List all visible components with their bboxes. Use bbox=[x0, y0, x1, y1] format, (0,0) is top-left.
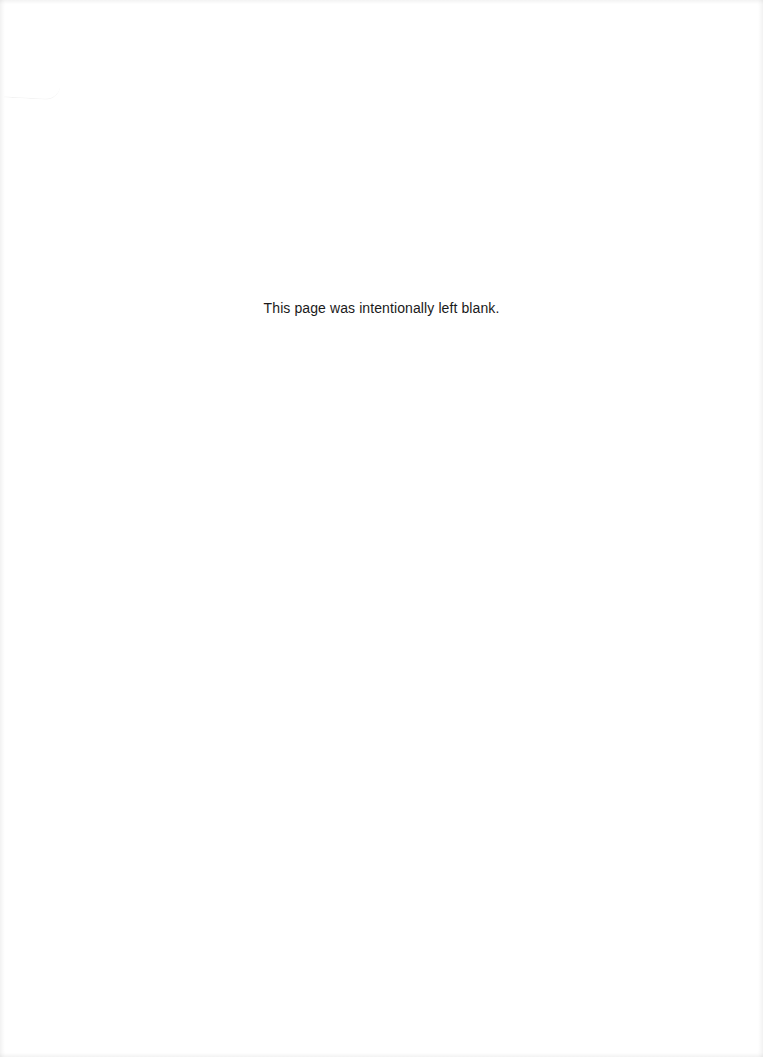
scan-artifact bbox=[4, 83, 61, 101]
scan-edge-left bbox=[0, 0, 5, 1057]
document-page: This page was intentionally left blank. bbox=[0, 0, 763, 1057]
scan-edge-right bbox=[758, 0, 763, 1057]
scan-edge-top bbox=[0, 0, 763, 4]
scan-edge-bottom bbox=[0, 1053, 763, 1057]
blank-page-notice: This page was intentionally left blank. bbox=[0, 299, 763, 317]
